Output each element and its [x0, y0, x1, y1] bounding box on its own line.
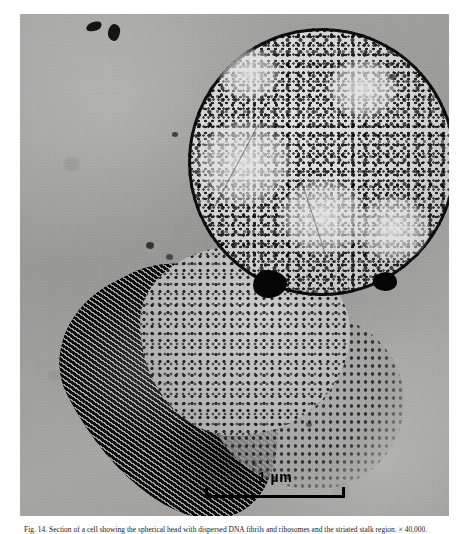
film-grain	[20, 14, 449, 516]
figure-page: 1 µm Fig. 14. Section of a cell showing …	[0, 0, 469, 534]
electron-micrograph-panel: 1 µm	[20, 14, 449, 516]
figure-caption: Fig. 14. Section of a cell showing the s…	[24, 526, 448, 534]
